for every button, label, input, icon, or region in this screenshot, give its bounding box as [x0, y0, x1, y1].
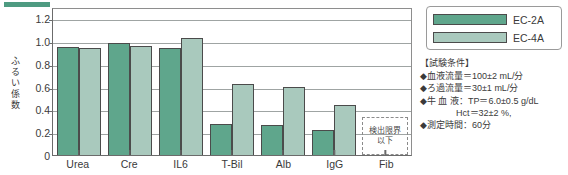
bar-cre-ec-4a [130, 46, 152, 155]
condition-line: ◆測定時間：60分 [420, 119, 568, 131]
bar-group-alb [258, 9, 309, 155]
bar-urea-ec-4a [79, 48, 101, 155]
y-tick-label: 1.2 [24, 13, 50, 25]
bar-group-il6 [155, 9, 206, 155]
x-tick-label-fib: Fib [361, 158, 412, 174]
x-tick-label-il6: IL6 [155, 158, 206, 174]
legend: EC-2A EC-4A [426, 6, 562, 50]
bar-il6-ec-2a [159, 48, 181, 155]
legend-swatch-icon [433, 32, 507, 43]
y-tick-label: 0.4 [24, 104, 50, 116]
legend-item-ec-4a: EC-4A [433, 30, 555, 45]
bar-group-t-bil [206, 9, 257, 155]
bar-group-fib: 検出限界以下 [360, 9, 411, 155]
y-axis-label: ふ る い 係 数 [8, 56, 22, 111]
bar-t-bil-ec-4a [232, 84, 254, 155]
legend-item-ec-2a: EC-2A [433, 12, 555, 27]
condition-line: ◆ろ過流量＝30±1 mL/分 [420, 82, 568, 94]
y-tick-label: 0.8 [24, 59, 50, 71]
legend-swatch-icon [433, 14, 507, 25]
y-axis-label-char: い [8, 78, 22, 89]
below-detection-limit-annotation: 検出限界以下 [362, 117, 408, 155]
x-tick-label-igg: IgG [309, 158, 360, 174]
condition-line: ◆血液流量＝100±2 mL/分 [420, 70, 568, 82]
bar-group-igg [309, 9, 360, 155]
chart-axes: 検出限界以下 [52, 8, 412, 156]
y-axis-label-char: 数 [8, 100, 22, 111]
annotation-line: 検出限界 [369, 126, 401, 136]
y-axis-ticks: 0 0.2 0.4 0.6 0.8 1.0 1.2 [22, 8, 50, 156]
chart-figure: ふ る い 係 数 0 0.2 0.4 0.6 0.8 1.0 1.2 [0, 0, 568, 175]
condition-line-indent: Hct＝32±2 %, [420, 107, 568, 119]
bar-t-bil-ec-2a [210, 124, 232, 155]
x-tick-label-t-bil: T-Bil [206, 158, 257, 174]
annotation-line: 以下 [377, 136, 393, 146]
bar-igg-ec-2a [312, 130, 334, 155]
y-tick-label: 0.6 [24, 82, 50, 94]
x-tick-label-urea: Urea [52, 158, 103, 174]
condition-line: ◆牛 血 液：TP＝6.0±0.5 g/dL [420, 95, 568, 107]
bar-il6-ec-4a [181, 38, 203, 155]
bar-urea-ec-2a [57, 47, 79, 155]
y-axis-label-char: る [8, 67, 22, 78]
x-tick-label-alb: Alb [258, 158, 309, 174]
bar-alb-ec-2a [261, 125, 283, 155]
y-tick-label: 0.2 [24, 127, 50, 139]
corner-mark-bar [4, 2, 50, 7]
bar-igg-ec-4a [334, 105, 356, 155]
legend-label: EC-2A [513, 14, 544, 26]
bar-group-urea [53, 9, 104, 155]
bar-cre-ec-2a [108, 43, 130, 155]
plot-area: ふ る い 係 数 0 0.2 0.4 0.6 0.8 1.0 1.2 [0, 8, 420, 170]
y-axis-label-char: 係 [8, 89, 22, 100]
legend-label: EC-4A [513, 32, 544, 44]
y-tick-label: 0 [24, 150, 50, 162]
bar-groups: 検出限界以下 [53, 9, 411, 155]
y-tick-label: 1.0 [24, 36, 50, 48]
x-axis-labels: UreaCreIL6T-BilAlbIgGFib [52, 158, 412, 174]
bar-group-cre [104, 9, 155, 155]
conditions-title: 【試験条件】 [420, 57, 568, 69]
y-axis-label-char: ふ [8, 56, 22, 67]
x-tick-label-cre: Cre [103, 158, 154, 174]
bar-alb-ec-4a [283, 87, 305, 155]
test-conditions-block: 【試験条件】 ◆血液流量＝100±2 mL/分 ◆ろ過流量＝30±1 mL/分 … [420, 57, 568, 131]
